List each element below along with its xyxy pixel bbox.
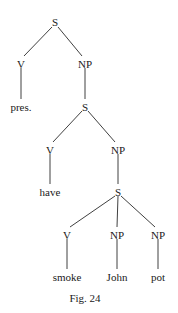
node-np-4: NP: [151, 229, 165, 241]
edge-s-np: [58, 27, 82, 56]
node-s-3: S: [115, 186, 121, 198]
edge-s3-v3: [70, 196, 115, 227]
node-s-root: S: [52, 16, 58, 28]
syntax-tree-diagram: S V NP pres. S V NP have S V NP NP smoke…: [0, 0, 178, 313]
node-s-2: S: [82, 101, 88, 113]
leaf-pres: pres.: [10, 101, 31, 113]
edge-s3-np4: [121, 196, 155, 227]
leaf-john: John: [107, 271, 128, 283]
node-np: NP: [78, 58, 92, 70]
node-np-3: NP: [110, 229, 124, 241]
node-np-2: NP: [111, 144, 125, 156]
edge-s-v2: [53, 111, 82, 142]
tree-nodes: S V NP pres. S V NP have S V NP NP smoke…: [10, 16, 165, 283]
leaf-have: have: [40, 186, 61, 198]
leaf-smoke: smoke: [53, 271, 82, 283]
leaf-pot: pot: [151, 271, 165, 283]
node-v: V: [17, 58, 25, 70]
edge-s3-np3: [117, 196, 118, 227]
node-v-2: V: [46, 144, 54, 156]
edge-s-np2: [88, 111, 115, 142]
edge-s-v: [24, 27, 52, 56]
node-v-3: V: [63, 229, 71, 241]
figure-caption: Fig. 24: [69, 292, 101, 304]
